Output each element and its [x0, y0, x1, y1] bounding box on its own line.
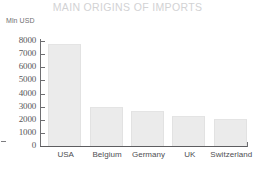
y-axis-unit-label: Mln USD	[6, 17, 35, 24]
y-axis-tick-label: 8000	[2, 35, 36, 45]
bar	[214, 119, 247, 146]
bar	[172, 116, 205, 146]
y-axis-tick-label: 1000	[2, 127, 36, 137]
bar	[90, 107, 123, 146]
y-axis-tick-label: 7000	[2, 48, 36, 58]
y-axis-tick-label: 3000	[2, 101, 36, 111]
bar-chart: MAIN ORIGINS OF IMPORTS Mln USD 01000200…	[0, 0, 255, 173]
y-axis-tick-label: 0	[2, 140, 36, 150]
y-axis-tick-label: 6000	[2, 61, 36, 71]
chart-title: MAIN ORIGINS OF IMPORTS	[0, 1, 255, 13]
plot-area	[40, 41, 248, 146]
y-axis-tick-label: 5000	[2, 74, 36, 84]
y-axis-tick-label: 4000	[2, 88, 36, 98]
x-axis-label: Switzerland	[203, 150, 255, 159]
y-axis-tick-label: 2000	[2, 114, 36, 124]
x-axis-line	[40, 146, 248, 147]
bar	[48, 44, 81, 146]
bar	[131, 111, 164, 146]
